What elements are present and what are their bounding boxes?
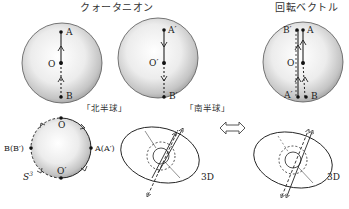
torus-3d-left xyxy=(114,119,205,195)
s3-label-o: O xyxy=(58,121,65,130)
point-label-a-prime: A′ xyxy=(168,26,177,35)
point-label-o-prime: O′ xyxy=(149,59,158,68)
point-label-b-prime: B′ xyxy=(283,26,292,35)
label-3d-left: 3D xyxy=(201,173,214,182)
s3-superscript: 3 xyxy=(29,170,33,177)
s3-label: S3 xyxy=(23,171,33,182)
point-label-a: A xyxy=(66,28,73,37)
sphere-north xyxy=(22,23,102,103)
title-rotation-vector: 回転ベクトル xyxy=(275,3,338,13)
torus-3d-right xyxy=(247,124,338,197)
s3-label-a: A(A′) xyxy=(95,145,115,153)
sphere-rotation-vector xyxy=(263,22,343,102)
label-3d-right: 3D xyxy=(327,173,340,182)
s3-label-o-prime: O′ xyxy=(57,167,66,176)
caption-north-hemisphere: 「北半球」 xyxy=(82,104,127,113)
point-label-b: B xyxy=(311,92,318,101)
point-label-o: O xyxy=(48,60,55,69)
point-label-a: A xyxy=(307,26,314,35)
s3-label-b: B(B′) xyxy=(4,145,24,153)
point-label-a-prime: A′ xyxy=(284,91,293,100)
caption-south-hemisphere: 「南半球」 xyxy=(185,104,230,113)
point-label-b-prime: B′ xyxy=(169,92,178,101)
point-label-o: O xyxy=(287,59,294,68)
point-label-b: B xyxy=(66,92,73,101)
double-arrow-icon xyxy=(220,122,245,134)
title-quaternion: クォータニオン xyxy=(80,3,154,13)
